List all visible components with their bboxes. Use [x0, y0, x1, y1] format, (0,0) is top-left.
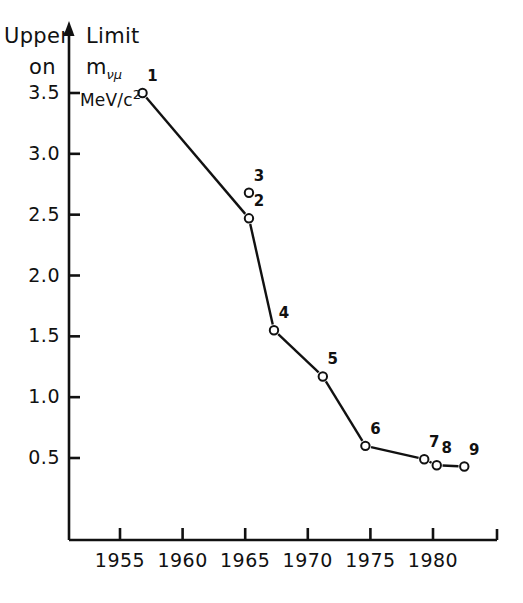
y-tick-label: 3.5: [8, 83, 60, 102]
series-segment: [278, 334, 318, 372]
units-prefix: MeV/c: [80, 90, 133, 110]
data-point-marker[interactable]: [433, 461, 441, 469]
y-tick-label: 0.5: [8, 448, 60, 467]
y-tick-label: 2.0: [8, 266, 60, 285]
series-segment: [326, 381, 362, 440]
data-point-marker[interactable]: [319, 372, 327, 380]
data-point-label: 1: [144, 69, 162, 84]
axis-title-mass-symbol: mνμ: [86, 57, 122, 81]
x-tick-label: 1975: [338, 551, 402, 570]
axis-units-label: MeV/c2: [80, 88, 141, 109]
x-axis-tick-marks: [120, 528, 433, 540]
data-point-label: 2: [250, 194, 268, 209]
data-point-label: 3: [250, 169, 268, 184]
data-series-line: [146, 97, 458, 466]
mass-m: m: [86, 55, 106, 79]
x-tick-label: 1955: [88, 551, 152, 570]
x-tick-label: 1980: [401, 551, 465, 570]
y-tick-label: 1.5: [8, 326, 60, 345]
axis-title-on: on: [29, 57, 56, 78]
y-tick-label: 3.0: [8, 144, 60, 163]
series-segment: [371, 447, 419, 458]
series-segment: [429, 462, 431, 463]
x-tick-label: 1965: [213, 551, 277, 570]
y-axis-tick-marks: [69, 93, 80, 458]
x-tick-label: 1970: [276, 551, 340, 570]
y-tick-label: 2.5: [8, 205, 60, 224]
data-point-marker[interactable]: [245, 214, 253, 222]
axis-title-upper: Upper: [4, 26, 69, 47]
data-point-marker[interactable]: [420, 455, 428, 463]
y-tick-label: 1.0: [8, 387, 60, 406]
data-point-marker[interactable]: [361, 442, 369, 450]
x-tick-label: 1960: [151, 551, 215, 570]
plot-canvas: [0, 0, 523, 603]
series-segment: [250, 224, 273, 325]
data-point-label: 4: [275, 306, 293, 321]
series-segment: [146, 97, 245, 213]
data-point-label: 5: [324, 352, 342, 367]
figure-upper-limit-neutrino-mass: Upper Limit on mνμ MeV/c2 0.51.01.52.02.…: [0, 0, 523, 603]
data-point-label: 9: [465, 443, 483, 458]
mass-subscript-nu-mu: νμ: [106, 67, 122, 82]
data-point-label: 8: [438, 441, 456, 456]
axis-title-limit: Limit: [86, 26, 140, 47]
data-point-marker[interactable]: [270, 326, 278, 334]
data-point-label: 6: [366, 422, 384, 437]
series-segment: [443, 466, 459, 467]
units-exponent: 2: [133, 87, 141, 102]
data-point-marker[interactable]: [460, 462, 468, 470]
